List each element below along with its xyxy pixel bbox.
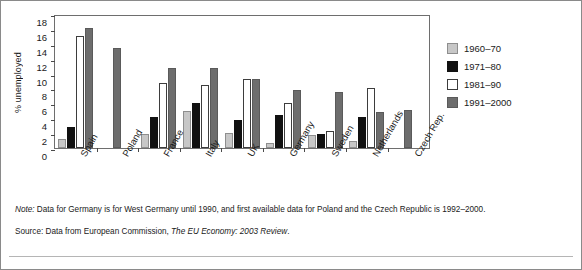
bar-group — [180, 16, 222, 148]
y-axis-tick-label: 6 — [42, 108, 47, 118]
y-axis-tick-mark — [51, 90, 55, 91]
y-axis-tick-label: 12 — [36, 63, 47, 73]
figure-container: % unemployed 181614121086420 SpainPoland… — [0, 0, 582, 270]
y-axis-tick-label: 10 — [36, 78, 47, 88]
legend-swatch — [447, 97, 458, 108]
y-axis-tick-label: 14 — [36, 48, 47, 58]
chart-region: % unemployed 181614121086420 SpainPoland… — [9, 7, 575, 202]
bar[interactable] — [358, 117, 366, 148]
plot-inner — [55, 16, 429, 148]
legend-label: 1981–90 — [464, 79, 501, 90]
bar[interactable] — [76, 36, 84, 148]
legend-label: 1971–80 — [464, 61, 501, 72]
legend-swatch — [447, 61, 458, 72]
x-axis-label-cell: UK — [221, 151, 263, 205]
chart-legend: 1960–701971–801981–901991–2000 — [447, 43, 571, 115]
x-axis-label-cell: Sweden — [305, 151, 347, 205]
y-axis-tick-mark — [51, 31, 55, 32]
bar[interactable] — [210, 68, 218, 148]
bar[interactable] — [275, 115, 283, 149]
bar[interactable] — [201, 85, 209, 148]
y-axis-tick-label: 8 — [42, 93, 47, 103]
bar-group — [221, 16, 263, 148]
x-axis-label-cell: Netherlands — [346, 151, 388, 205]
y-axis-tick-mark — [51, 16, 55, 17]
y-axis-tick-mark — [51, 135, 55, 136]
bottom-divider — [9, 256, 573, 257]
legend-swatch — [447, 79, 458, 90]
y-axis-tick-mark — [51, 61, 55, 62]
note-prefix: Note: — [15, 205, 35, 214]
bar-group — [138, 16, 180, 148]
bar[interactable] — [234, 120, 242, 148]
bar-groups — [55, 16, 429, 148]
bar[interactable] — [159, 83, 167, 149]
y-axis-tick-label: 2 — [42, 137, 47, 147]
y-axis-tick-label: 0 — [42, 152, 47, 162]
note-line: Note: Data for Germany is for West Germa… — [15, 205, 567, 216]
legend-label: 1960–70 — [464, 43, 501, 54]
bar[interactable] — [284, 103, 292, 148]
legend-label: 1991–2000 — [464, 97, 512, 108]
bar-group — [97, 16, 139, 148]
figure-notes: Note: Data for Germany is for West Germa… — [15, 205, 567, 237]
bar[interactable] — [404, 110, 412, 148]
bar[interactable] — [67, 127, 75, 148]
bar-group — [55, 16, 97, 148]
bar[interactable] — [141, 134, 149, 148]
legend-swatch — [447, 43, 458, 54]
legend-item[interactable]: 1991–2000 — [447, 97, 571, 108]
note-text: Data for Germany is for West Germany unt… — [35, 205, 486, 214]
bar[interactable] — [58, 139, 66, 148]
x-axis-label-cell: Czech Rep. — [388, 151, 430, 205]
x-axis-label-cell: Spain — [54, 151, 96, 205]
bar[interactable] — [243, 79, 251, 148]
y-axis-tick-mark — [51, 46, 55, 47]
x-axis-label-cell: Poland — [96, 151, 138, 205]
x-axis-label-cell: France — [138, 151, 180, 205]
bar[interactable] — [266, 143, 274, 148]
source-title: The EU Economy: 2003 Review — [171, 227, 287, 236]
bar[interactable] — [349, 141, 357, 148]
legend-item[interactable]: 1971–80 — [447, 61, 571, 72]
bar[interactable] — [192, 103, 200, 148]
x-axis-label-cell: Italy — [179, 151, 221, 205]
x-axis-label-cell: Germany — [263, 151, 305, 205]
x-axis-category-labels: SpainPolandFranceItalyUKGermanySwedenNet… — [54, 151, 430, 205]
y-axis-tick-mark — [51, 76, 55, 77]
source-text: Data from European Commission, — [46, 227, 172, 236]
bar[interactable] — [367, 88, 375, 148]
y-axis-tick-label: 16 — [36, 33, 47, 43]
bar[interactable] — [317, 134, 325, 148]
source-text-end: . — [287, 227, 289, 236]
legend-item[interactable]: 1960–70 — [447, 43, 571, 54]
plot-area — [54, 15, 430, 149]
bar-group — [263, 16, 305, 148]
source-prefix: Source: — [15, 227, 46, 236]
legend-item[interactable]: 1981–90 — [447, 79, 571, 90]
bar[interactable] — [113, 48, 121, 148]
bar[interactable] — [183, 111, 191, 148]
y-axis-tick-label: 4 — [42, 122, 47, 132]
y-axis-tick-mark — [51, 120, 55, 121]
bar[interactable] — [150, 117, 158, 148]
y-axis-tick-labels: 181614121086420 — [25, 15, 51, 149]
bar[interactable] — [252, 79, 260, 148]
y-axis-tick-mark — [51, 105, 55, 106]
bar[interactable] — [85, 28, 93, 148]
bar[interactable] — [225, 133, 233, 148]
y-axis-tick-label: 18 — [36, 18, 47, 28]
source-line: Source: Data from European Commission, T… — [15, 227, 567, 238]
